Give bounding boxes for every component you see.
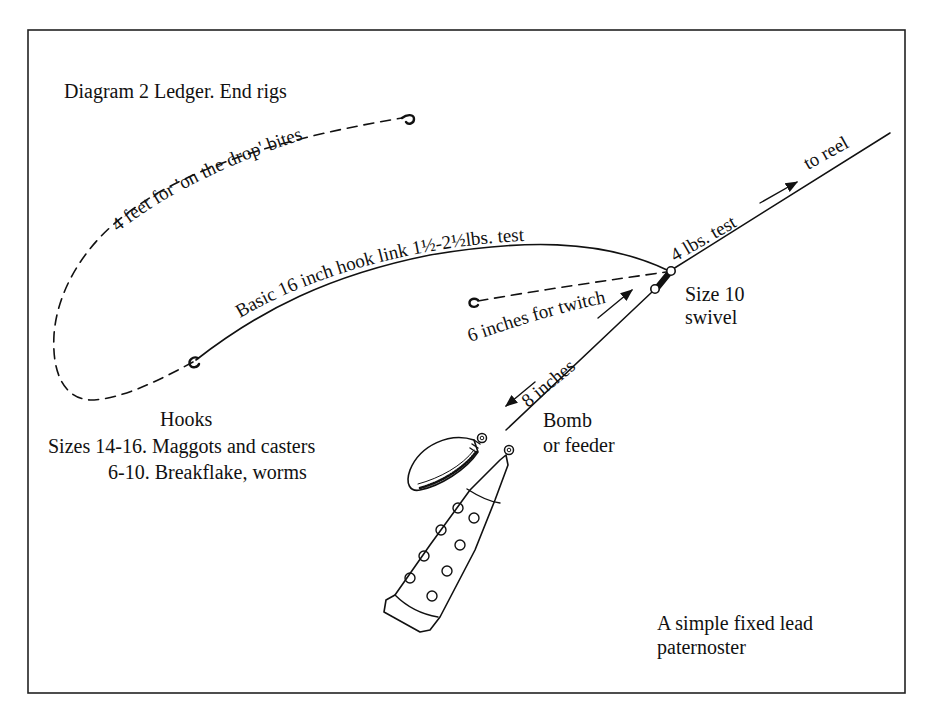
caption-line-2: paternoster — [657, 636, 746, 659]
weight-label-feeder: or feeder — [543, 434, 615, 456]
hooks-line-1: Sizes 14-16. Maggots and casters — [48, 435, 315, 458]
hooks-line-2: 6-10. Breakflake, worms — [108, 461, 307, 483]
drop-link-label: 4 feet for 'on the drop' bites — [107, 123, 304, 235]
swivel-icon — [651, 267, 675, 293]
bomb-weight-icon — [408, 434, 486, 491]
ledger-rig-diagram: Diagram 2 Ledger. End rigs — [0, 0, 925, 726]
weight-label-bomb: Bomb — [543, 409, 592, 431]
main-line-label: 4 lbs. test — [667, 211, 741, 266]
caption-line-1: A simple fixed lead — [657, 612, 813, 635]
swivel-label-name: swivel — [685, 306, 738, 328]
lead-link-label: 8 inches — [517, 355, 579, 411]
hook-link-label: Basic 16 inch hook link 1½-2½lbs. test — [232, 224, 526, 322]
hooks-heading: Hooks — [160, 408, 212, 430]
arrow-icon — [760, 182, 797, 203]
diagram-title: Diagram 2 Ledger. End rigs — [64, 80, 287, 103]
feeder-icon — [384, 446, 514, 633]
to-reel-label: to reel — [800, 132, 852, 174]
hook-icon — [470, 299, 478, 307]
diagram-frame — [28, 30, 905, 693]
hook-icon — [402, 115, 414, 124]
swivel-label-size: Size 10 — [685, 283, 744, 305]
